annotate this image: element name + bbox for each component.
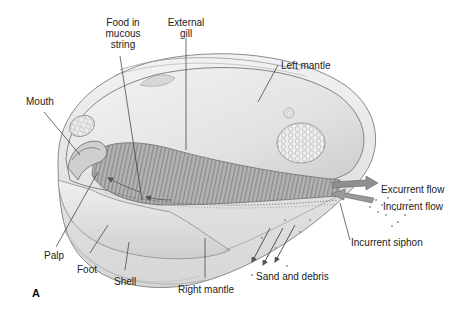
label-mouth: Mouth bbox=[26, 96, 54, 107]
label-external-gill: External gill bbox=[163, 17, 209, 39]
label-incurrent-siphon: Incurrent siphon bbox=[351, 237, 423, 248]
label-excurrent-flow: Excurrent flow bbox=[381, 184, 444, 195]
label-line: External bbox=[163, 17, 209, 28]
label-line: mucous bbox=[98, 28, 148, 39]
label-palp: Palp bbox=[44, 250, 64, 261]
label-food-in-mucous-string: Food in mucous string bbox=[98, 17, 148, 50]
label-left-mantle: Left mantle bbox=[281, 60, 330, 71]
label-shell: Shell bbox=[114, 276, 136, 287]
panel-label: A bbox=[32, 287, 40, 299]
clam-diagram bbox=[0, 0, 464, 311]
label-incurrent-flow: Incurrent flow bbox=[383, 201, 443, 212]
label-sand-and-debris: Sand and debris bbox=[256, 271, 329, 282]
label-line: string bbox=[98, 39, 148, 50]
label-foot: Foot bbox=[77, 264, 97, 275]
label-line: gill bbox=[163, 28, 209, 39]
posterior-adductor-muscle bbox=[277, 123, 325, 163]
label-right-mantle: Right mantle bbox=[178, 284, 234, 295]
label-line: Food in bbox=[98, 17, 148, 28]
